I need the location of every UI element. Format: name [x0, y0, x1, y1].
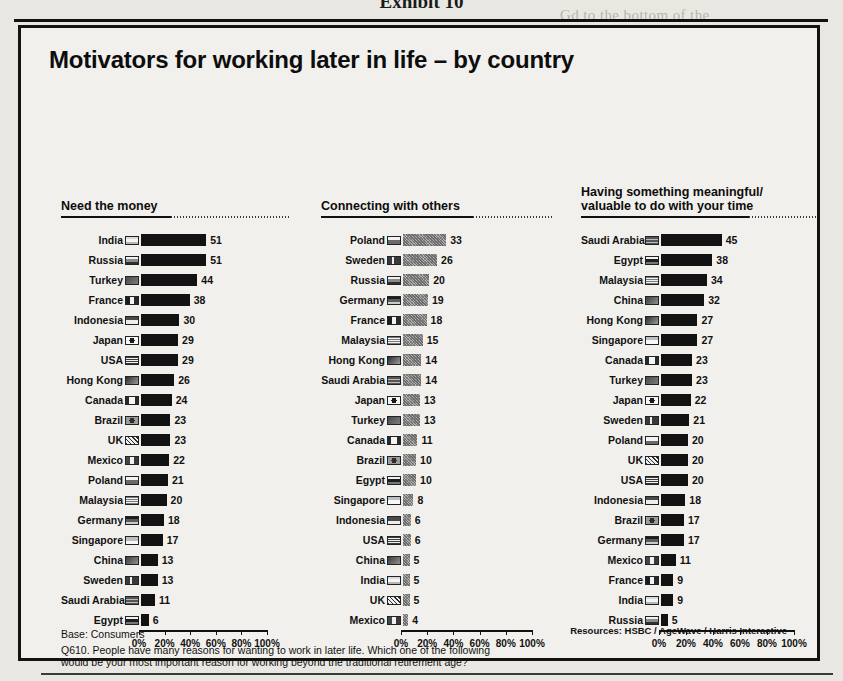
bar-row: India9: [581, 590, 817, 610]
bar-row: Russia51: [61, 250, 291, 270]
bar-value: 51: [210, 254, 222, 266]
bar-label: Sweden: [61, 575, 125, 586]
bar-row: Russia20: [321, 270, 553, 290]
bar: [141, 594, 155, 606]
bar-label: Russia: [61, 255, 125, 266]
chart-panel-having-something-meaningful: Having something meaningful/ valuable to…: [581, 183, 817, 654]
bar-value: 13: [424, 394, 436, 406]
bar-label: Brazil: [581, 515, 645, 526]
bar-row: Egypt10: [321, 470, 553, 490]
bar-row: Mexico4: [321, 610, 553, 630]
flag-icon: [645, 416, 659, 425]
footer-rule: [41, 673, 833, 675]
bar: [661, 534, 684, 546]
bar-value: 33: [450, 234, 462, 246]
bar-label: Brazil: [61, 415, 125, 426]
bar-value: 34: [711, 274, 723, 286]
bar-row: Mexico11: [581, 550, 817, 570]
flag-icon: [645, 476, 659, 485]
bar-label: Canada: [321, 435, 387, 446]
bar-label: Brazil: [321, 455, 387, 466]
flag-icon: [387, 396, 401, 405]
flag-icon: [645, 556, 659, 565]
page-title: Motivators for working later in life – b…: [49, 46, 574, 74]
flag-icon: [645, 516, 659, 525]
flag-icon: [645, 616, 659, 625]
bar-row: UK5: [321, 590, 553, 610]
bar-label: Sweden: [581, 415, 645, 426]
bar-label: India: [581, 595, 645, 606]
bar: [661, 334, 697, 346]
bar-label: Egypt: [321, 475, 387, 486]
bar-row: Mexico22: [61, 450, 291, 470]
bar: [661, 434, 688, 446]
bar: [403, 514, 411, 526]
bar-row: Malaysia15: [321, 330, 553, 350]
bar: [661, 594, 673, 606]
axis-tick-label: 60%: [730, 638, 750, 649]
bar-value: 17: [688, 534, 700, 546]
bar-label: Germany: [321, 295, 387, 306]
flag-icon: [645, 376, 659, 385]
flag-icon: [645, 536, 659, 545]
flag-icon: [125, 256, 139, 265]
flag-icon: [387, 296, 401, 305]
flag-icon: [645, 236, 659, 245]
bar-value: 23: [174, 414, 186, 426]
top-rule: [14, 19, 828, 22]
bar-label: Egypt: [581, 255, 645, 266]
bar-label: Japan: [321, 395, 387, 406]
bar: [141, 474, 168, 486]
flag-icon: [645, 356, 659, 365]
flag-icon: [387, 416, 401, 425]
bar-row: Brazil10: [321, 450, 553, 470]
flag-icon: [125, 396, 139, 405]
bar: [141, 234, 206, 246]
bar-value: 9: [677, 594, 683, 606]
bar-row: Canada24: [61, 390, 291, 410]
bar-row: Turkey44: [61, 270, 291, 290]
bar: [141, 434, 170, 446]
flag-icon: [125, 456, 139, 465]
flag-icon: [125, 316, 139, 325]
flag-icon: [125, 596, 139, 605]
bar-label: USA: [581, 475, 645, 486]
bar-value: 23: [174, 434, 186, 446]
bar-value: 6: [415, 514, 421, 526]
footer-note: Base: Consumers Q610. People have many r…: [61, 628, 521, 669]
bar-value: 4: [412, 614, 418, 626]
bar-value: 45: [726, 234, 738, 246]
flag-icon: [125, 416, 139, 425]
bar-value: 22: [695, 394, 707, 406]
bar: [141, 314, 179, 326]
bar-label: France: [321, 315, 387, 326]
flag-icon: [387, 276, 401, 285]
bar-value: 19: [432, 294, 444, 306]
bar-value: 30: [183, 314, 195, 326]
bar: [403, 594, 410, 606]
flag-icon: [125, 556, 139, 565]
bar: [141, 394, 172, 406]
bar-row: UK23: [61, 430, 291, 450]
bar: [141, 534, 163, 546]
bar: [141, 354, 178, 366]
bar: [141, 414, 170, 426]
flag-icon: [645, 496, 659, 505]
bar-row: Egypt38: [581, 250, 817, 270]
bar-value: 13: [162, 554, 174, 566]
bar: [661, 254, 712, 266]
bar-row: China5: [321, 550, 553, 570]
bar-label: Saudi Arabia: [61, 595, 125, 606]
flag-icon: [125, 476, 139, 485]
bar-row: China13: [61, 550, 291, 570]
bar-row: Japan13: [321, 390, 553, 410]
bar-row: Egypt6: [61, 610, 291, 630]
bar-row: USA20: [581, 470, 817, 490]
bar-row: Singapore17: [61, 530, 291, 550]
bar-value: 23: [696, 374, 708, 386]
bar-label: Indonesia: [581, 495, 645, 506]
bar: [661, 314, 697, 326]
bar-row: Saudi Arabia11: [61, 590, 291, 610]
bar-label: Canada: [61, 395, 125, 406]
bar-row: Germany17: [581, 530, 817, 550]
